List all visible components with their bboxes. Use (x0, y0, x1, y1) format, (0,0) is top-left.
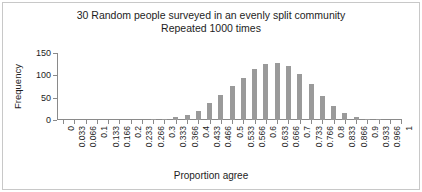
bar (331, 106, 336, 120)
x-axis-tick-label: 1 (405, 126, 414, 131)
x-axis-tick-label: 0.466 (224, 126, 233, 147)
x-axis-tick-label: 0.4 (202, 126, 211, 138)
bar (230, 86, 235, 120)
bar (297, 74, 302, 120)
x-axis-tick (311, 120, 312, 124)
x-axis-title: Proportion agree (3, 170, 419, 181)
x-axis-tick-label: 0.666 (292, 126, 301, 147)
x-axis-tick (164, 120, 165, 124)
x-axis-tick (108, 120, 109, 124)
bar (342, 113, 347, 120)
bar (196, 111, 201, 120)
bar (218, 95, 223, 120)
x-axis-tick-label: 0.033 (78, 126, 87, 147)
x-axis-tick-label: 0.8 (337, 126, 346, 138)
x-axis-tick-label: 0.566 (258, 126, 267, 147)
y-axis-tick-label: 100 (36, 71, 51, 80)
x-axis-tick-label: 0.533 (247, 126, 256, 147)
x-axis-tick-label: 0.966 (393, 126, 402, 147)
x-axis-tick (277, 120, 278, 124)
x-axis-tick (198, 120, 199, 124)
x-axis-tick (153, 120, 154, 124)
bar (263, 64, 268, 120)
bar (241, 78, 246, 120)
x-axis-tick (119, 120, 120, 124)
y-axis-title: Frequency (11, 53, 23, 120)
x-axis-tick-label: 0.266 (157, 126, 166, 147)
plot-area: 050100150 00.0330.0660.10.1330.1660.20.2… (57, 53, 402, 120)
x-axis-tick (288, 120, 289, 124)
x-axis-tick-label: 0.333 (179, 126, 188, 147)
x-axis-tick (243, 120, 244, 124)
bar (309, 84, 314, 120)
x-axis-tick-label: 0.133 (112, 126, 121, 147)
x-axis-tick (390, 120, 391, 124)
x-axis-tick (367, 120, 368, 124)
x-axis-tick (379, 120, 380, 124)
bar (207, 103, 212, 120)
x-axis-tick-label: 0.2 (134, 126, 143, 138)
x-axis-tick (322, 120, 323, 124)
x-axis-tick (266, 120, 267, 124)
y-axis-tick (53, 120, 57, 121)
x-axis-tick-label: 0.933 (382, 126, 391, 147)
x-axis-tick-label: 0 (67, 126, 76, 131)
y-axis-tick-label: 150 (36, 49, 51, 58)
x-axis-tick-label: 0.233 (145, 126, 154, 147)
x-axis-tick-label: 0.9 (371, 126, 380, 138)
x-axis-tick-label: 0.066 (89, 126, 98, 147)
chart-title: 30 Random people surveyed in an evenly s… (3, 9, 419, 35)
chart-frame: 30 Random people surveyed in an evenly s… (2, 2, 420, 190)
x-axis-tick (131, 120, 132, 124)
x-axis-tick (232, 120, 233, 124)
chart-title-line2: Repeated 1000 times (161, 22, 261, 34)
x-axis-tick-label: 0.3 (168, 126, 177, 138)
x-axis-tick-label: 0.866 (360, 126, 369, 147)
x-axis-tick-label: 0.633 (281, 126, 290, 147)
x-axis-tick-label: 0.166 (123, 126, 132, 147)
x-axis-tick-label: 0.5 (236, 126, 245, 138)
x-axis-tick (221, 120, 222, 124)
x-axis-tick (334, 120, 335, 124)
x-axis-tick (345, 120, 346, 124)
bar (320, 96, 325, 120)
x-axis-tick (86, 120, 87, 124)
y-axis-tick-label: 50 (41, 93, 51, 102)
x-axis-tick-label: 0.6 (269, 126, 278, 138)
bar (275, 63, 280, 120)
y-axis-tick-label: 0 (46, 116, 51, 125)
x-axis-tick (142, 120, 143, 124)
x-axis-tick (176, 120, 177, 124)
x-axis-tick (187, 120, 188, 124)
x-axis-tick-label: 0.766 (326, 126, 335, 147)
x-axis-tick-label: 0.833 (348, 126, 357, 147)
x-axis-tick (74, 120, 75, 124)
x-axis-tick (63, 120, 64, 124)
x-axis-tick-label: 0.433 (213, 126, 222, 147)
x-axis-tick (356, 120, 357, 124)
x-axis-tick-label: 0.366 (191, 126, 200, 147)
x-axis-tick (300, 120, 301, 124)
x-axis-tick (255, 120, 256, 124)
x-axis-tick (97, 120, 98, 124)
x-axis-tick-label: 0.733 (315, 126, 324, 147)
x-axis-tick (210, 120, 211, 124)
bar-series (57, 53, 402, 120)
x-axis-tick-label: 0.1 (100, 126, 109, 138)
x-axis-tick (401, 120, 402, 124)
x-axis-tick-label: 0.7 (303, 126, 312, 138)
bar (252, 69, 257, 120)
bar (286, 66, 291, 120)
chart-title-line1: 30 Random people surveyed in an evenly s… (77, 9, 345, 21)
